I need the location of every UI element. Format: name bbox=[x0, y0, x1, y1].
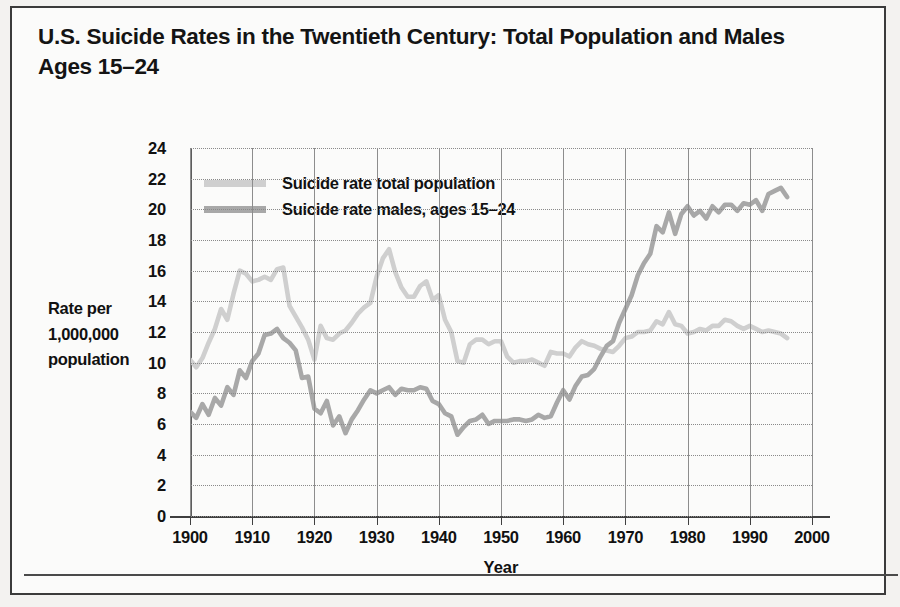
bottom-divider bbox=[24, 574, 898, 576]
y-axis-tick-label: 24 bbox=[126, 139, 166, 158]
x-gridline bbox=[688, 148, 689, 516]
x-axis-tick-label: 1950 bbox=[483, 528, 519, 547]
page-title: U.S. Suicide Rates in the Twentieth Cent… bbox=[38, 22, 838, 81]
x-axis-tick bbox=[252, 516, 253, 525]
x-gridline bbox=[750, 148, 751, 516]
x-axis-tick-label: 1930 bbox=[359, 528, 395, 547]
x-axis-tick-label: 1910 bbox=[234, 528, 270, 547]
x-axis-tick bbox=[812, 516, 813, 525]
x-axis-tick-label: 1900 bbox=[172, 528, 208, 547]
y-axis-tick-label: 14 bbox=[126, 292, 166, 311]
x-axis-tick bbox=[625, 516, 626, 525]
x-gridline bbox=[625, 148, 626, 516]
series-line-total-population bbox=[190, 249, 787, 367]
y-axis-tick-label: 12 bbox=[126, 323, 166, 342]
y-axis-tick-label: 22 bbox=[126, 169, 166, 188]
x-gridline bbox=[190, 148, 191, 516]
legend-item-total-population: Suicide rate total population bbox=[204, 170, 515, 196]
y-axis-tick-label: 0 bbox=[126, 507, 166, 526]
x-axis-tick-label: 1970 bbox=[608, 528, 644, 547]
x-axis-tick bbox=[563, 516, 564, 525]
y-axis-tick-label: 8 bbox=[126, 384, 166, 403]
x-axis-tick-label: 1960 bbox=[545, 528, 581, 547]
plot-area: Suicide rate total population Suicide ra… bbox=[190, 148, 812, 516]
x-gridline bbox=[563, 148, 564, 516]
x-axis-tick bbox=[501, 516, 502, 525]
x-axis-tick bbox=[688, 516, 689, 525]
x-axis-tick bbox=[377, 516, 378, 525]
y-axis-tick-label: 4 bbox=[126, 445, 166, 464]
x-gridline bbox=[314, 148, 315, 516]
x-axis-tick bbox=[190, 516, 191, 525]
x-axis-tick-label: 2000 bbox=[794, 528, 830, 547]
y-axis-tick-label: 10 bbox=[126, 353, 166, 372]
series-line-males-15-24 bbox=[190, 188, 787, 435]
x-axis-tick bbox=[750, 516, 751, 525]
x-axis-tick-label: 1940 bbox=[421, 528, 457, 547]
x-axis-tick bbox=[439, 516, 440, 525]
figure-card: U.S. Suicide Rates in the Twentieth Cent… bbox=[10, 6, 886, 595]
x-axis-tick-label: 1990 bbox=[732, 528, 768, 547]
x-axis-tick-label: 1980 bbox=[670, 528, 706, 547]
x-gridline bbox=[439, 148, 440, 516]
x-gridline bbox=[501, 148, 502, 516]
y-axis-tick-label: 20 bbox=[126, 200, 166, 219]
x-axis-tick-label: 1920 bbox=[297, 528, 333, 547]
y-axis-tick-label: 18 bbox=[126, 231, 166, 250]
y-axis-tick-label: 16 bbox=[126, 261, 166, 280]
x-gridline bbox=[252, 148, 253, 516]
legend-swatch-total-population bbox=[204, 180, 266, 187]
x-axis-tick bbox=[314, 516, 315, 525]
x-gridline bbox=[377, 148, 378, 516]
x-gridline bbox=[812, 148, 813, 516]
y-axis-tick-label: 6 bbox=[126, 415, 166, 434]
screenshot-root: U.S. Suicide Rates in the Twentieth Cent… bbox=[0, 0, 900, 607]
y-axis-tick-label: 2 bbox=[126, 476, 166, 495]
